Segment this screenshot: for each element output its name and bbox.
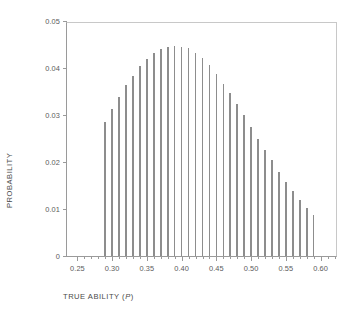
x-axis-minor-tick [293,256,294,259]
x-axis-minor-tick [105,256,106,259]
y-axis-tick [63,162,67,163]
bar [209,65,211,256]
bar [153,53,155,256]
x-axis-tick-label: 0.45 [209,264,224,273]
x-axis-tick [216,256,217,261]
chart-container: PROBABILITY 00.010.020.030.040.050.250.3… [0,0,358,324]
bar [223,84,225,256]
x-axis-minor-tick [126,256,127,259]
bar [306,208,308,256]
x-axis-minor-tick [196,256,197,259]
bar [271,160,273,256]
x-axis-title: TRUE ABILITY (P) [63,292,134,301]
bar [118,97,120,256]
x-axis-minor-tick [265,256,266,259]
bar [278,172,280,256]
x-axis-title-prefix: TRUE ABILITY ( [63,292,125,301]
x-axis-tick [182,256,183,261]
y-axis-tick-label: 0 [56,252,60,261]
x-axis-minor-tick [314,256,315,259]
bar [132,76,134,256]
x-axis-minor-tick [140,256,141,259]
y-axis-tick-label: 0.02 [45,158,60,167]
bar [146,59,148,256]
bar [292,191,294,256]
x-axis-minor-tick [272,256,273,259]
x-axis-minor-tick [161,256,162,259]
x-axis-minor-tick [223,256,224,259]
x-axis-minor-tick [307,256,308,259]
bar [243,115,245,256]
x-axis-minor-tick [133,256,134,259]
bar [160,49,162,256]
bar [313,215,315,256]
x-axis-minor-tick [335,256,336,259]
bar [111,109,113,256]
y-axis-tick [63,209,67,210]
bar [299,200,301,256]
x-axis-tick-label: 0.30 [105,264,120,273]
x-axis-minor-tick [209,256,210,259]
plot-area: 00.010.020.030.040.050.250.300.350.400.4… [66,22,337,257]
x-axis-tick-label: 0.50 [244,264,259,273]
bar [216,74,218,256]
bar [236,104,238,256]
bar [257,139,259,257]
x-axis-tick [112,256,113,261]
y-axis-tick [63,21,67,22]
y-axis-tick-label: 0.01 [45,205,60,214]
bar [181,47,183,256]
x-axis-minor-tick [258,256,259,259]
bar [188,48,190,256]
y-axis-tick-label: 0.03 [45,111,60,120]
bar [250,127,252,256]
x-axis-tick-label: 0.60 [313,264,328,273]
bar [139,66,141,256]
x-axis-minor-tick [279,256,280,259]
x-axis-minor-tick [119,256,120,259]
bar [229,93,231,256]
x-axis-minor-tick [189,256,190,259]
x-axis-title-suffix: ) [131,292,134,301]
x-axis-minor-tick [300,256,301,259]
bar [264,150,266,256]
x-axis-minor-tick [328,256,329,259]
x-axis-minor-tick [230,256,231,259]
bar [195,53,197,257]
bar [285,182,287,256]
y-axis-tick-label: 0.04 [45,64,60,73]
bar [167,47,169,256]
y-axis-tick-label: 0.05 [45,17,60,26]
x-axis-minor-tick [237,256,238,259]
x-axis-minor-tick [203,256,204,259]
x-axis-tick [147,256,148,261]
x-axis-minor-tick [98,256,99,259]
y-axis-tick [63,115,67,116]
x-axis-tick [251,256,252,261]
bar [202,58,204,256]
x-axis-tick-label: 0.55 [278,264,293,273]
x-axis-minor-tick [91,256,92,259]
bar [104,122,106,256]
y-axis-tick [63,256,67,257]
x-axis-tick-label: 0.40 [174,264,189,273]
x-axis-tick-label: 0.25 [70,264,85,273]
x-axis-minor-tick [175,256,176,259]
x-axis-minor-tick [84,256,85,259]
x-axis-tick [286,256,287,261]
bar [125,85,127,256]
x-axis-minor-tick [154,256,155,259]
y-axis-tick [63,68,67,69]
x-axis-tick-label: 0.35 [140,264,155,273]
x-axis-tick [321,256,322,261]
x-axis-minor-tick [244,256,245,259]
x-axis-tick [77,256,78,261]
x-axis-minor-tick [168,256,169,259]
bar [174,46,176,256]
plot-inner: 00.010.020.030.040.050.250.300.350.400.4… [67,23,336,256]
y-axis-title: PROBABILITY [5,153,14,208]
